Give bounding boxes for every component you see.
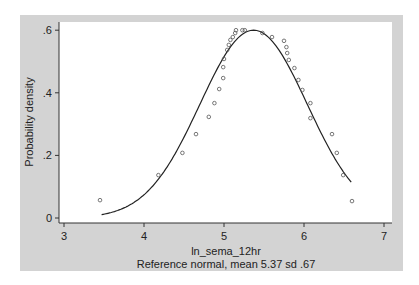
x-tick-label: 5 [221, 230, 227, 242]
x-tick-label: 6 [301, 230, 307, 242]
x-tick-label: 3 [61, 230, 67, 242]
y-tick-label: 0 [46, 212, 52, 224]
y-tick-label: .6 [43, 24, 52, 36]
y-tick-label: .2 [43, 149, 52, 161]
plot-area [59, 22, 392, 223]
chart-note: Reference normal, mean 5.37 sd .67 [137, 258, 316, 270]
x-axis-title: ln_sema_12hr [191, 245, 261, 257]
y-tick-label: .4 [43, 87, 52, 99]
y-axis-title: Probability density [23, 77, 35, 167]
x-tick-label: 4 [141, 230, 147, 242]
x-tick-label: 7 [381, 230, 387, 242]
density-chart: 0.2.4.634567 ln_sema_12hr Reference norm… [0, 0, 419, 285]
